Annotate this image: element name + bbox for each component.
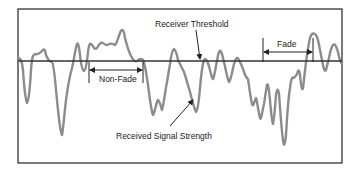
fading-diagram: Receiver Threshold Non-Fade Fade Receive… <box>0 0 359 174</box>
non-fade-label: Non-Fade <box>99 74 137 84</box>
received-signal-strength-label: Received Signal Strength <box>116 131 212 141</box>
receiver-threshold-label: Receiver Threshold <box>155 19 229 29</box>
fade-label: Fade <box>277 39 297 49</box>
